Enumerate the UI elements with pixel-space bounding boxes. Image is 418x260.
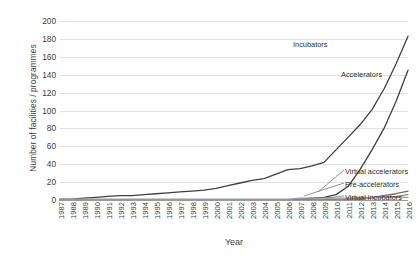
x-tick-label: 2010 <box>333 202 342 219</box>
y-tick-label: 180 <box>20 34 56 44</box>
y-tick-label: 20 <box>20 177 56 187</box>
x-tick-label: 2001 <box>225 202 234 219</box>
x-tick-label: 2007 <box>297 202 306 219</box>
x-tick-label: 2004 <box>261 202 270 219</box>
x-tick-label: 1990 <box>93 202 102 219</box>
y-tick-label: 100 <box>20 106 56 116</box>
y-axis-tick-labels: 020406080100120140160180200 <box>20 0 56 260</box>
y-tick-label: 160 <box>20 52 56 62</box>
series-label-virtual-incubators: Virtual incubators <box>345 193 402 202</box>
y-tick-label: 80 <box>20 123 56 133</box>
x-tick-label: 2009 <box>321 202 330 219</box>
x-tick-label: 1987 <box>57 202 66 219</box>
x-tick-label: 2003 <box>249 202 258 219</box>
x-tick-label: 2015 <box>393 202 402 219</box>
x-tick-label: 2006 <box>285 202 294 219</box>
line-chart: Number of facilities / programmes 020406… <box>0 0 418 260</box>
y-tick-label: 120 <box>20 88 56 98</box>
x-tick-label: 2000 <box>213 202 222 219</box>
series-label-accelerators: Accelerators <box>341 70 382 79</box>
x-tick-label: 2002 <box>237 202 246 219</box>
x-tick-label: 1989 <box>81 202 90 219</box>
x-tick-label: 2008 <box>309 202 318 219</box>
y-tick-label: 0 <box>20 195 56 205</box>
x-axis-title: Year <box>60 237 408 247</box>
x-tick-label: 2012 <box>357 202 366 219</box>
x-tick-label: 2016 <box>405 202 414 219</box>
x-tick-label: 2014 <box>381 202 390 219</box>
x-tick-label: 1998 <box>189 202 198 219</box>
x-tick-label: 1999 <box>201 202 210 219</box>
x-tick-label: 2005 <box>273 202 282 219</box>
y-tick-label: 200 <box>20 16 56 26</box>
x-tick-label: 1993 <box>129 202 138 219</box>
x-tick-label: 1992 <box>117 202 126 219</box>
y-tick-label: 40 <box>20 159 56 169</box>
y-tick-label: 60 <box>20 141 56 151</box>
y-tick-label: 140 <box>20 70 56 80</box>
x-tick-label: 1991 <box>105 202 114 219</box>
series-label-incubators: Incubators <box>293 40 328 49</box>
x-tick-label: 1997 <box>177 202 186 219</box>
x-tick-label: 2011 <box>345 202 354 218</box>
series-label-virtual-accelerators: Virtual accelerators <box>345 167 408 176</box>
x-tick-label: 2013 <box>369 202 378 219</box>
x-tick-label: 1994 <box>141 202 150 219</box>
series-label-pre-accelerators: Pre-accelerators <box>345 180 399 189</box>
x-tick-label: 1995 <box>153 202 162 219</box>
x-tick-label: 1996 <box>165 202 174 219</box>
x-axis-tick-labels: 1987198819891990199119921993199419951996… <box>60 202 408 236</box>
x-tick-label: 1988 <box>69 202 78 219</box>
